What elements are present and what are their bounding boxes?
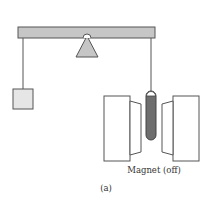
right-magnet-pole	[162, 101, 173, 155]
sample-tube	[146, 91, 156, 140]
magnet-label: Magnet (off)	[127, 165, 181, 175]
hanging-block	[13, 89, 33, 109]
left-magnet-pole	[130, 101, 141, 155]
figure-label: (a)	[100, 183, 112, 193]
left-magnet-body	[104, 96, 130, 161]
fulcrum-pivot	[83, 34, 91, 38]
right-magnet-body	[173, 96, 199, 161]
balance-diagram: Magnet (off) (a)	[0, 0, 211, 203]
fulcrum-triangle	[76, 36, 98, 57]
